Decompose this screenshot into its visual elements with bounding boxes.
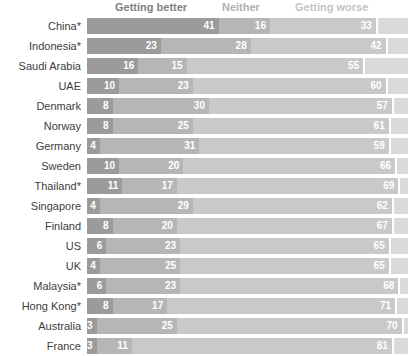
stacked-bar: 161555: [87, 58, 408, 74]
segment-remainder: [391, 118, 408, 134]
legend-getting-better: Getting better: [115, 1, 187, 13]
segment-neither: 29: [100, 198, 193, 214]
segment-getting-worse: 60: [193, 78, 386, 94]
value-label: 3: [87, 318, 97, 334]
segment-getting-better: 8: [87, 98, 113, 114]
stacked-bar: 111769: [87, 178, 408, 194]
segment-remainder: [391, 238, 408, 254]
value-label: 11: [108, 178, 123, 194]
segment-getting-better: 6: [87, 238, 106, 254]
segment-neither: 23: [106, 278, 180, 294]
segment-remainder: [391, 138, 408, 154]
chart-row: Australia32570: [0, 316, 413, 336]
segment-neither: 11: [97, 338, 132, 354]
segment-getting-worse: 65: [180, 238, 389, 254]
value-label: 23: [146, 38, 161, 54]
segment-getting-better: 8: [87, 218, 113, 234]
chart-row: Finland82067: [0, 216, 413, 236]
category-label: Thailand*: [0, 180, 87, 192]
segment-remainder: [397, 298, 408, 314]
value-label: 71: [380, 298, 395, 314]
value-label: 4: [90, 198, 100, 214]
category-label: UK: [0, 260, 87, 272]
segment-neither: 17: [113, 298, 168, 314]
stacked-bar: 232842: [87, 38, 408, 54]
chart-row: Singapore42962: [0, 196, 413, 216]
value-label: 8: [103, 218, 113, 234]
segment-getting-better: 10: [87, 158, 119, 174]
category-label: UAE: [0, 80, 87, 92]
stacked-bar: 31181: [87, 338, 408, 354]
stacked-bar: 81771: [87, 298, 408, 314]
chart-row: UK42565: [0, 256, 413, 276]
value-label: 8: [103, 118, 113, 134]
segment-neither: 31: [100, 138, 200, 154]
value-label: 57: [377, 98, 392, 114]
stacked-bar: 102066: [87, 158, 408, 174]
value-label: 6: [97, 238, 107, 254]
category-label: Saudi Arabia: [0, 60, 87, 72]
segment-neither: 23: [106, 238, 180, 254]
value-label: 62: [377, 198, 392, 214]
segment-getting-better: 23: [87, 38, 161, 54]
segment-remainder: [391, 258, 408, 274]
value-label: 67: [377, 218, 392, 234]
segment-getting-worse: 67: [177, 218, 392, 234]
value-label: 10: [104, 78, 119, 94]
category-label: Singapore: [0, 200, 87, 212]
segment-getting-worse: 33: [270, 18, 376, 34]
chart-row: US62365: [0, 236, 413, 256]
value-label: 70: [386, 318, 401, 334]
segment-getting-better: 41: [87, 18, 219, 34]
segment-getting-worse: 55: [187, 58, 364, 74]
segment-getting-better: 4: [87, 138, 100, 154]
value-label: 16: [123, 58, 138, 74]
value-label: 25: [162, 318, 177, 334]
value-label: 3: [87, 338, 97, 354]
segment-neither: 20: [113, 218, 177, 234]
segment-neither: 23: [119, 78, 193, 94]
chart-row: Germany43159: [0, 136, 413, 156]
segment-getting-worse: 69: [177, 178, 398, 194]
segment-getting-worse: 62: [193, 198, 392, 214]
value-label: 59: [374, 138, 389, 154]
stacked-bar: 82561: [87, 118, 408, 134]
segment-neither: 25: [100, 258, 180, 274]
segment-neither: 25: [97, 318, 177, 334]
chart-row: Norway82561: [0, 116, 413, 136]
segment-getting-better: 11: [87, 178, 122, 194]
segment-getting-worse: 81: [132, 338, 392, 354]
category-label: Indonesia*: [0, 40, 87, 52]
segment-getting-worse: 66: [183, 158, 395, 174]
segment-neither: 25: [113, 118, 193, 134]
segment-remainder: [365, 58, 408, 74]
segment-remainder: [404, 318, 408, 334]
chart-row: UAE102360: [0, 76, 413, 96]
value-label: 11: [117, 338, 132, 354]
stacked-bar: 82067: [87, 218, 408, 234]
segment-remainder: [400, 178, 408, 194]
segment-remainder: [378, 18, 408, 34]
segment-getting-better: 3: [87, 318, 97, 334]
value-label: 8: [103, 98, 113, 114]
segment-getting-better: 10: [87, 78, 119, 94]
value-label: 4: [90, 138, 100, 154]
category-label: Germany: [0, 140, 87, 152]
value-label: 66: [380, 158, 395, 174]
segment-neither: 15: [138, 58, 186, 74]
value-label: 23: [178, 78, 193, 94]
category-label: Australia: [0, 320, 87, 332]
segment-getting-better: 8: [87, 118, 113, 134]
value-label: 20: [168, 158, 183, 174]
segment-neither: 30: [113, 98, 209, 114]
value-label: 41: [203, 18, 218, 34]
value-label: 60: [370, 78, 385, 94]
chart-row: Denmark83057: [0, 96, 413, 116]
stacked-bar: 43159: [87, 138, 408, 154]
category-label: Denmark: [0, 100, 87, 112]
segment-neither: 28: [161, 38, 251, 54]
segment-getting-better: 8: [87, 298, 113, 314]
segment-getting-worse: 59: [199, 138, 388, 154]
segment-neither: 16: [219, 18, 270, 34]
value-label: 65: [374, 238, 389, 254]
